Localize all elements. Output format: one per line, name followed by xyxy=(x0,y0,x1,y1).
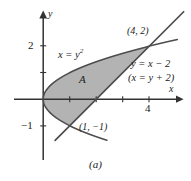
region-label-A: A xyxy=(79,74,86,85)
point-label-1-minus-1: (1, −1) xyxy=(79,122,107,132)
parabola-equation-text: x = y xyxy=(58,49,80,60)
line-equation-alt-label: (x = y + 2) xyxy=(128,73,174,84)
figure-caption: (a) xyxy=(0,158,191,170)
y-tick-label-2: 2 xyxy=(28,40,34,51)
y-axis-label: y xyxy=(48,9,52,19)
point-label-4-2: (4, 2) xyxy=(127,26,149,36)
figure-container: y x 2 −1 4 x = y2 A (4, 2) (1, −1) y = x… xyxy=(0,0,191,181)
plot-canvas xyxy=(0,0,191,181)
parabola-exponent: 2 xyxy=(80,47,84,55)
x-tick-label-4: 4 xyxy=(145,103,151,114)
x-axis-label: x xyxy=(169,84,173,94)
parabola-equation-label: x = y2 xyxy=(58,48,83,60)
y-tick-label-minus-1: −1 xyxy=(21,120,33,131)
line-equation-label: y = x − 2 xyxy=(131,59,170,70)
